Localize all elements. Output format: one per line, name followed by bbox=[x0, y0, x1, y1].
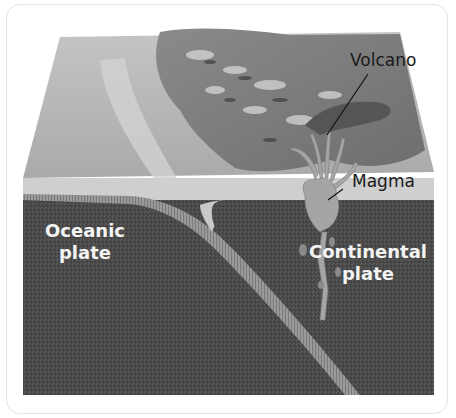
continental-plate-label-line1: Continental bbox=[308, 241, 428, 263]
oceanic-plate-label-line1: Oceanic bbox=[40, 220, 130, 242]
oceanic-plate-label-line2: plate bbox=[40, 242, 130, 264]
oceanic-plate-label: Oceanic plate bbox=[40, 220, 130, 264]
continental-plate-label-line2: plate bbox=[308, 263, 428, 285]
volcano-label: Volcano bbox=[350, 52, 416, 69]
magma-label: Magma bbox=[352, 173, 415, 190]
continental-plate-label: Continental plate bbox=[308, 241, 428, 285]
